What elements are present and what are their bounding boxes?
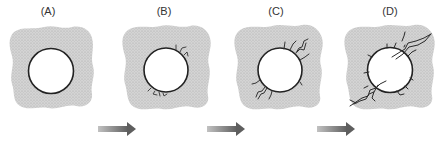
hole-a <box>29 49 74 94</box>
hole-b <box>144 48 188 92</box>
stage-b <box>122 25 210 109</box>
arrow-b-to-c <box>207 122 245 136</box>
stage-d <box>344 25 434 110</box>
stage-label-a: (A) <box>41 5 56 17</box>
arrow-a-to-b <box>98 122 136 136</box>
stage-c <box>234 25 322 110</box>
stage-label-b: (B) <box>157 5 172 17</box>
arrow-c-to-d <box>317 122 355 136</box>
hole-c <box>258 48 302 92</box>
hole-d <box>368 48 413 93</box>
stage-label-c: (C) <box>268 5 283 17</box>
stage-label-d: (D) <box>382 5 397 17</box>
stage-a <box>10 26 94 108</box>
diagram-canvas: (A) (B) (C) (D) <box>0 0 443 141</box>
